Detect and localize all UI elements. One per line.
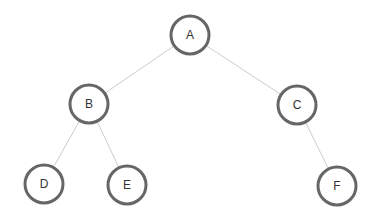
node-a-label: A — [186, 28, 194, 42]
node-c: C — [278, 86, 316, 124]
node-d-label: D — [40, 177, 49, 191]
node-f: F — [318, 167, 356, 205]
tree-diagram: A B C D E F — [0, 0, 378, 221]
node-e-label: E — [123, 178, 131, 192]
node-f-label: F — [333, 179, 340, 193]
node-b: B — [70, 85, 108, 123]
nodes: A B C D E F — [25, 16, 356, 205]
node-c-label: C — [293, 98, 302, 112]
node-a: A — [171, 16, 209, 54]
node-d: D — [25, 165, 63, 203]
node-e: E — [108, 166, 146, 204]
node-b-label: B — [85, 97, 93, 111]
